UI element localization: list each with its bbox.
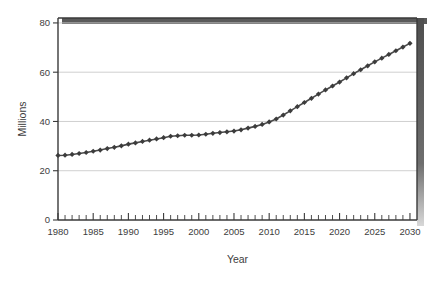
x-tick-label-2000: 2000 [188,226,209,237]
x-tick-label-1990: 1990 [118,226,139,237]
x-tick-label-2030: 2030 [399,226,420,237]
x-tick-label-2010: 2010 [259,226,280,237]
chart-container: 020406080 198019851990199520002005201020… [0,0,443,284]
chart-background [0,0,443,284]
y-tick-label-0: 0 [45,214,50,225]
x-axis-title: Year [227,253,249,265]
y-tick-label-40: 40 [39,116,50,127]
x-tick-label-2005: 2005 [223,226,244,237]
x-tick-label-2015: 2015 [294,226,315,237]
y-axis-title: Millions [16,101,28,136]
x-tick-label-1995: 1995 [153,226,174,237]
frame-shadow-right [417,18,424,226]
line-chart: 020406080 198019851990199520002005201020… [0,0,443,284]
x-tick-label-1985: 1985 [83,226,104,237]
x-tick-label-1980: 1980 [47,226,68,237]
x-tick-label-2020: 2020 [329,226,350,237]
y-tick-label-20: 20 [39,165,50,176]
y-tick-label-60: 60 [39,67,50,78]
y-tick-label-80: 80 [39,17,50,28]
x-tick-label-2025: 2025 [364,226,385,237]
